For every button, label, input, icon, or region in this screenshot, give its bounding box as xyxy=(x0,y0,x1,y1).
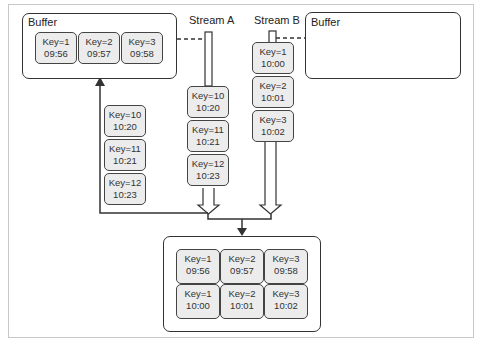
buffered-record: Key=1110:21 xyxy=(104,139,146,171)
right-buffer: Buffer xyxy=(305,12,461,79)
stream-a-record: Key=1210:23 xyxy=(187,154,229,186)
left-buffer-record: Key=309:58 xyxy=(121,32,163,64)
stream-a-label: Stream A xyxy=(189,14,234,26)
left-buffer-title: Buffer xyxy=(28,16,57,28)
right-buffer-title: Buffer xyxy=(311,16,340,28)
joined-record: Key=310:02 xyxy=(264,284,308,319)
joined-record: Key=209:57 xyxy=(220,249,264,284)
left-buffer-record: Key=209:57 xyxy=(78,32,120,64)
stream-a-record: Key=1110:21 xyxy=(187,120,229,152)
stream-a-record: Key=1010:20 xyxy=(187,86,229,118)
buffered-record: Key=1210:23 xyxy=(104,173,146,205)
buffered-record: Key=1010:20 xyxy=(104,105,146,137)
stream-b-record: Key=310:02 xyxy=(252,110,294,142)
joined-record: Key=110:00 xyxy=(176,284,220,319)
joined-record: Key=109:56 xyxy=(176,249,220,284)
stream-b-record: Key=210:01 xyxy=(252,76,294,108)
left-buffer-record: Key=109:56 xyxy=(35,32,77,64)
stream-b-record: Key=110:00 xyxy=(252,42,294,74)
stream-b-label: Stream B xyxy=(254,14,300,26)
joined-record: Key=210:01 xyxy=(220,284,264,319)
joined-record: Key=309:58 xyxy=(264,249,308,284)
